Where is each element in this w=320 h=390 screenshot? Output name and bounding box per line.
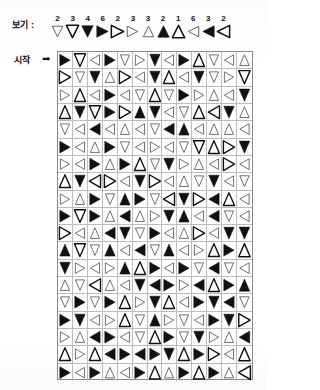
grid-cell-triangle-right[interactable] [207,329,222,346]
grid-cell-triangle-left[interactable] [162,225,177,242]
grid-cell-triangle-right[interactable] [192,242,207,259]
grid-cell-triangle-up[interactable] [133,104,148,121]
grid-cell-triangle-down[interactable] [192,329,207,346]
grid-cell-triangle-left[interactable] [192,208,207,225]
grid-cell-triangle-left[interactable] [192,312,207,329]
triangle-grid[interactable] [57,51,253,380]
grid-cell-triangle-right[interactable] [103,260,118,277]
grid-cell-triangle-left[interactable] [222,346,237,363]
grid-cell-triangle-right[interactable] [73,346,88,363]
grid-cell-triangle-up[interactable] [207,139,222,156]
grid-cell-triangle-up[interactable] [103,277,118,294]
grid-cell-triangle-down[interactable] [73,173,88,190]
grid-cell-triangle-left[interactable] [88,52,103,69]
grid-cell-triangle-down[interactable] [162,346,177,363]
grid-cell-triangle-right[interactable] [162,277,177,294]
grid-cell-triangle-down[interactable] [133,225,148,242]
grid-cell-triangle-down[interactable] [237,294,252,311]
grid-cell-triangle-right[interactable] [177,87,192,104]
grid-cell-triangle-down[interactable] [148,69,163,86]
grid-cell-triangle-right[interactable] [162,329,177,346]
grid-cell-triangle-right[interactable] [177,277,192,294]
grid-cell-triangle-right[interactable] [237,312,252,329]
grid-cell-triangle-right[interactable] [103,104,118,121]
grid-cell-triangle-left[interactable] [222,87,237,104]
grid-cell-triangle-up[interactable] [133,208,148,225]
grid-cell-triangle-up[interactable] [103,364,118,381]
grid-cell-triangle-right[interactable] [148,139,163,156]
grid-cell-triangle-left[interactable] [133,139,148,156]
grid-cell-triangle-right[interactable] [222,156,237,173]
grid-cell-triangle-up[interactable] [222,191,237,208]
grid-cell-triangle-right[interactable] [58,329,73,346]
grid-cell-triangle-left[interactable] [207,208,222,225]
grid-cell-triangle-up[interactable] [177,225,192,242]
grid-cell-triangle-right[interactable] [192,294,207,311]
grid-cell-triangle-right[interactable] [88,364,103,381]
grid-cell-triangle-right[interactable] [177,52,192,69]
grid-cell-triangle-up[interactable] [73,191,88,208]
grid-cell-triangle-up[interactable] [133,260,148,277]
grid-cell-triangle-left[interactable] [118,364,133,381]
grid-cell-triangle-right[interactable] [148,173,163,190]
grid-cell-triangle-left[interactable] [88,121,103,138]
grid-cell-triangle-left[interactable] [133,69,148,86]
grid-cell-triangle-right[interactable] [103,87,118,104]
grid-cell-triangle-right[interactable] [88,208,103,225]
grid-cell-triangle-left[interactable] [88,87,103,104]
grid-cell-triangle-down[interactable] [177,139,192,156]
grid-cell-triangle-up[interactable] [162,364,177,381]
grid-cell-triangle-down[interactable] [148,242,163,259]
grid-cell-triangle-left[interactable] [207,191,222,208]
grid-cell-triangle-up[interactable] [88,139,103,156]
grid-cell-triangle-left[interactable] [118,329,133,346]
grid-cell-triangle-down[interactable] [133,312,148,329]
grid-cell-triangle-down[interactable] [73,312,88,329]
grid-cell-triangle-right[interactable] [88,191,103,208]
grid-cell-triangle-left[interactable] [73,364,88,381]
grid-cell-triangle-up[interactable] [237,277,252,294]
grid-cell-triangle-right[interactable] [222,242,237,259]
grid-cell-triangle-left[interactable] [177,69,192,86]
grid-cell-triangle-down[interactable] [237,87,252,104]
grid-cell-triangle-up[interactable] [58,346,73,363]
grid-cell-triangle-up[interactable] [207,242,222,259]
grid-cell-triangle-down[interactable] [58,260,73,277]
grid-cell-triangle-up[interactable] [162,242,177,259]
grid-cell-triangle-down[interactable] [73,277,88,294]
grid-cell-triangle-left[interactable] [88,173,103,190]
grid-cell-triangle-up[interactable] [177,208,192,225]
grid-cell-triangle-right[interactable] [177,364,192,381]
grid-cell-triangle-down[interactable] [118,139,133,156]
grid-cell-triangle-right[interactable] [58,69,73,86]
grid-cell-triangle-left[interactable] [237,156,252,173]
grid-cell-triangle-down[interactable] [192,260,207,277]
grid-cell-triangle-up[interactable] [103,69,118,86]
grid-cell-triangle-up[interactable] [88,346,103,363]
grid-cell-triangle-down[interactable] [177,312,192,329]
grid-cell-triangle-up[interactable] [103,156,118,173]
grid-cell-triangle-down[interactable] [58,121,73,138]
grid-cell-triangle-up[interactable] [148,364,163,381]
grid-cell-triangle-down[interactable] [207,173,222,190]
grid-cell-triangle-down[interactable] [118,52,133,69]
grid-cell-triangle-left[interactable] [73,225,88,242]
grid-cell-triangle-left[interactable] [73,156,88,173]
grid-cell-triangle-left[interactable] [237,260,252,277]
grid-cell-triangle-right[interactable] [118,156,133,173]
grid-cell-triangle-down[interactable] [222,312,237,329]
grid-cell-triangle-up[interactable] [162,294,177,311]
grid-cell-triangle-left[interactable] [162,173,177,190]
grid-cell-triangle-right[interactable] [148,225,163,242]
grid-cell-triangle-up[interactable] [237,346,252,363]
grid-cell-triangle-left[interactable] [237,364,252,381]
grid-cell-triangle-left[interactable] [118,277,133,294]
grid-cell-triangle-right[interactable] [177,156,192,173]
grid-cell-triangle-down[interactable] [177,191,192,208]
grid-cell-triangle-down[interactable] [118,225,133,242]
grid-cell-triangle-left[interactable] [103,225,118,242]
grid-cell-triangle-up[interactable] [58,277,73,294]
grid-cell-triangle-right[interactable] [103,312,118,329]
grid-cell-triangle-right[interactable] [103,329,118,346]
grid-cell-triangle-right[interactable] [118,69,133,86]
